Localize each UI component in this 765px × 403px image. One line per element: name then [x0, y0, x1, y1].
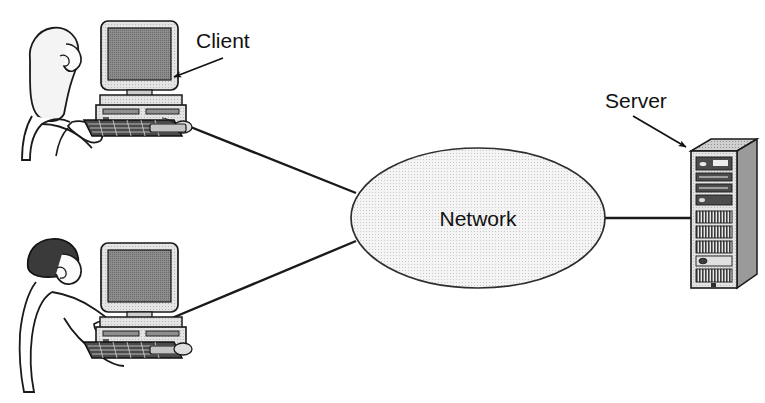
client-top-group[interactable]	[22, 21, 192, 160]
person-forearm-lower	[56, 128, 68, 156]
client-bottom-monitor	[101, 243, 178, 319]
server-side-face	[737, 139, 757, 288]
server-annotation-arrow	[633, 116, 686, 147]
monitor-screen	[108, 250, 171, 302]
link-client-top-to-network	[178, 122, 356, 193]
annotation-client: Client	[174, 29, 250, 77]
person-hair	[30, 28, 79, 121]
monitor-screen	[108, 28, 171, 80]
network-diagram-svg: Network	[0, 0, 765, 403]
server-power-button[interactable]	[699, 258, 707, 264]
server-foot-marker	[711, 283, 716, 287]
mouse-body	[174, 343, 192, 355]
person-torso	[20, 282, 52, 392]
client-annotation-arrow	[174, 58, 223, 77]
server-annotation-label: Server	[605, 89, 667, 112]
client-top-monitor	[101, 21, 178, 97]
client-bottom-group[interactable]	[20, 239, 192, 392]
case-foot	[150, 124, 186, 132]
server-vent-3	[696, 241, 732, 253]
person-torso	[22, 116, 70, 160]
case-drive-bay-lower	[146, 331, 179, 336]
server-vent-2	[696, 226, 732, 238]
server-power-led	[700, 162, 707, 166]
case-drive-bay-lower	[146, 109, 179, 114]
annotation-server: Server	[605, 89, 686, 147]
network-diagram-canvas: Network	[0, 0, 765, 403]
case-drive-bay-upper	[103, 109, 139, 114]
server-tower-group[interactable]	[691, 139, 757, 288]
server-vent-bottom	[696, 269, 732, 282]
network-cloud-label: Network	[439, 207, 517, 230]
case-drive-bay-upper	[103, 331, 139, 336]
network-cloud-node[interactable]: Network	[351, 148, 605, 288]
server-label-slot	[713, 160, 728, 166]
client-top-person	[22, 28, 102, 160]
server-bay-led-3	[699, 198, 705, 202]
server-vent-1	[696, 211, 732, 223]
link-client-bottom-to-network	[172, 241, 356, 318]
client-annotation-label: Client	[196, 29, 250, 52]
